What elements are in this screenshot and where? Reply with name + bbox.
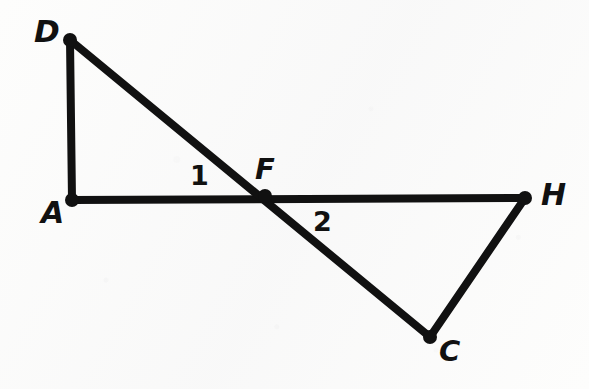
segment-da (70, 40, 72, 200)
segment-ah (72, 198, 525, 200)
angle-1-label: 1 (190, 162, 209, 189)
vertex-label-h: H (541, 180, 566, 210)
segments-group (70, 40, 525, 337)
vertex-node-d (63, 33, 77, 47)
vertex-node-a (65, 193, 79, 207)
segment-dc (70, 40, 430, 337)
vertex-label-a: A (41, 198, 64, 228)
vertex-label-c: C (439, 337, 460, 366)
vertex-label-f: F (255, 155, 275, 184)
figure-canvas (0, 0, 589, 389)
vertex-node-h (518, 191, 532, 205)
geometry-diagram: DAFHC 12 (0, 0, 589, 389)
segment-hc (430, 198, 525, 337)
vertex-node-c (423, 330, 437, 344)
vertex-label-d: D (34, 16, 60, 47)
angle-2-label: 2 (313, 208, 332, 235)
vertex-node-f (258, 189, 272, 203)
